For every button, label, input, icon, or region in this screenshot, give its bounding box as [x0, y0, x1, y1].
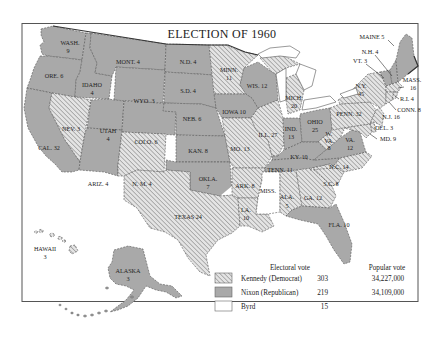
label-utah: UTAH — [100, 127, 117, 134]
label-ohio: OHIO — [307, 118, 323, 125]
label-mich: MICH. — [285, 94, 303, 101]
label-ny-votes: 45 — [358, 90, 364, 97]
label-texas: TEXAS 24 — [174, 213, 202, 220]
legend-header-popular: Popular vote — [369, 264, 406, 272]
label-hawaii: HAWAII — [34, 245, 56, 252]
label-ariz: ARIZ. 4 — [88, 180, 109, 187]
legend-popular: 34,109,000 — [372, 289, 405, 297]
label-mass: MASS. — [403, 76, 422, 83]
label-ind: IND. — [285, 125, 298, 132]
label-md: MD. 9 — [380, 135, 396, 142]
label-la-votes: 10 — [243, 214, 249, 221]
label-mont: MONT. 4 — [116, 58, 140, 65]
label-sd: S.D. 4 — [180, 87, 196, 94]
label-minn: MINN. — [220, 66, 238, 73]
label-ill: ILL. 27 — [259, 131, 278, 138]
swatch-gray — [215, 287, 232, 297]
label-sc: S.C. 8 — [323, 180, 338, 187]
label-del: DEL. 3 — [375, 124, 393, 131]
election-map: ELECTION OF 1960 WASH. 9 ORE. 6 CAL. 32 … — [0, 0, 439, 342]
legend-electoral: 15 — [321, 303, 329, 311]
label-va-votes: 12 — [347, 144, 353, 151]
label-colo: COLO. 6 — [134, 138, 157, 145]
legend-candidate: Kennedy (Democrat) — [241, 275, 302, 283]
label-hawaii-votes: 3 — [43, 253, 46, 260]
label-mich-votes: 20 — [291, 102, 297, 109]
state-ariz[interactable] — [79, 128, 122, 176]
label-ore: ORE. 6 — [45, 72, 64, 79]
label-okla-votes: 7 — [206, 183, 209, 190]
label-penn: PENN. 32 — [336, 110, 361, 117]
label-maine: MAINE 5 — [360, 33, 385, 40]
label-ky: KY. 10 — [290, 153, 307, 160]
label-wva-2: VA. — [324, 137, 334, 144]
label-wyo: WYO. 3 — [134, 97, 155, 104]
swatch-white — [215, 301, 232, 311]
legend-header-electoral: Electoral vote — [270, 264, 310, 272]
label-wva-votes: 8 — [327, 144, 330, 151]
label-ny: N.Y. — [355, 82, 367, 89]
label-utah-votes: 4 — [106, 135, 109, 142]
legend-electoral: 219 — [317, 289, 328, 297]
state-alaska[interactable] — [59, 246, 182, 317]
label-tenn: TENN. 11 — [267, 166, 293, 173]
legend-row-nixon: Nixon (Republican) 219 34,109,000 — [215, 287, 405, 297]
label-wash: WASH. — [60, 39, 80, 46]
label-iowa: IOWA 10 — [222, 108, 246, 115]
label-nm: N. M. 4 — [132, 180, 151, 187]
label-ri: R.I. 4 — [400, 95, 414, 102]
label-fla: FLA. 10 — [329, 221, 350, 228]
label-ala: ALA. — [280, 193, 295, 200]
label-idaho: IDAHO — [82, 81, 102, 88]
legend: Electoral vote Popular vote Kennedy (Dem… — [215, 264, 405, 311]
legend-candidate: Nixon (Republican) — [241, 289, 299, 297]
label-ala-votes: 5 — [285, 202, 288, 209]
legend-row-kennedy: Kennedy (Democrat) 303 34,227,000 — [215, 273, 405, 283]
label-wis: WIS. 12 — [247, 82, 268, 89]
label-mass-votes: 16 — [410, 84, 416, 91]
label-okla: OKLA. — [199, 175, 218, 182]
label-kan: KAN. 8 — [188, 147, 208, 154]
label-alaska: ALASKA — [115, 267, 141, 274]
label-conn: CONN. 8 — [397, 106, 421, 113]
label-mo: MO. 13 — [230, 145, 249, 152]
map-title: ELECTION OF 1960 — [168, 27, 277, 41]
label-alaska-votes: 3 — [126, 275, 129, 282]
legend-electoral: 303 — [317, 275, 328, 283]
label-nev: NEV. 3 — [62, 125, 80, 132]
label-nh: N.H. 4 — [362, 48, 379, 55]
state-fla[interactable] — [286, 204, 352, 264]
label-cal: CAL. 32 — [38, 144, 60, 151]
state-utah[interactable] — [87, 99, 124, 130]
label-ga: GA. 12 — [304, 194, 322, 201]
label-va: VA. — [345, 136, 355, 143]
legend-candidate: Byrd — [241, 303, 256, 311]
label-wash-votes: 9 — [66, 47, 69, 54]
label-nd: N.D. 4 — [180, 58, 197, 65]
label-minn-votes: 11 — [226, 74, 232, 81]
label-wva-1: W. — [326, 130, 333, 137]
label-miss: MISS. — [260, 187, 276, 194]
legend-row-byrd: Byrd 15 — [215, 301, 328, 311]
swatch-hatched — [215, 273, 232, 283]
label-la: LA. — [241, 206, 251, 213]
label-ark: ARK. 8 — [235, 182, 254, 189]
label-ohio-votes: 25 — [312, 126, 318, 133]
legend-popular: 34,227,000 — [372, 275, 405, 283]
label-ind-votes: 13 — [288, 133, 294, 140]
label-nj: N.J. 16 — [382, 113, 400, 120]
label-vt: VT. 3 — [353, 57, 367, 64]
label-nc: N.C. 14 — [329, 163, 348, 170]
label-idaho-votes: 4 — [90, 89, 93, 96]
label-neb: NEB. 6 — [183, 115, 202, 122]
